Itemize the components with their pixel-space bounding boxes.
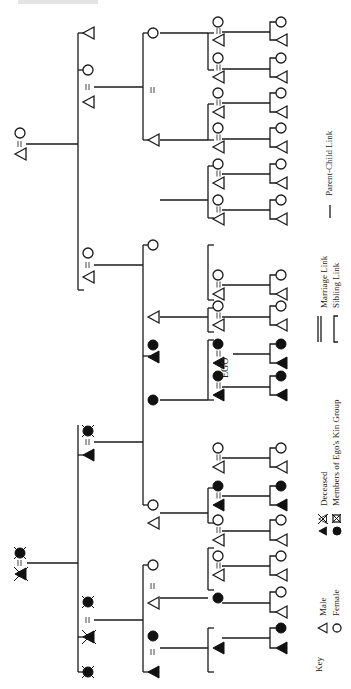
male-symbol — [148, 597, 159, 609]
marriage-link-icon — [86, 84, 89, 90]
male-symbol — [213, 177, 224, 189]
deceased-female-symbol — [82, 425, 94, 437]
kin-male-symbol — [213, 389, 224, 401]
legend-kin-female-icon — [333, 527, 341, 535]
kin-female-symbol — [276, 339, 286, 349]
male-symbol — [276, 141, 287, 153]
deceased-female-symbol — [82, 666, 94, 678]
female-symbol — [213, 301, 223, 311]
male-symbol — [213, 106, 224, 118]
kin-female-symbol — [276, 481, 286, 491]
marriage-link-icon — [217, 351, 220, 357]
marriage-link-icon — [217, 135, 220, 141]
marriage-link-icon — [18, 560, 21, 566]
male-symbol — [83, 27, 94, 39]
female-symbol — [83, 65, 93, 75]
female-symbol — [83, 248, 93, 258]
generation-5 — [276, 17, 287, 654]
svg-text:Key: Key — [314, 657, 324, 672]
marriage-link-icon — [217, 455, 220, 461]
male-symbol — [213, 213, 224, 225]
kin-female-symbol — [148, 631, 158, 641]
legend-sibling-link-icon — [334, 316, 338, 342]
female-symbol — [276, 515, 286, 525]
legend-female-label: Female — [331, 590, 341, 617]
legend-deceased-female-icon — [332, 514, 341, 523]
generation-2 — [82, 27, 96, 678]
male-symbol — [276, 319, 287, 331]
marriage-link-icon — [151, 87, 154, 93]
male-symbol — [276, 106, 287, 118]
kin-female-symbol — [213, 593, 223, 603]
legend-female-icon — [333, 624, 341, 632]
legend-deceased-male-icon — [318, 514, 328, 524]
marriage-link-icon — [217, 313, 220, 319]
marriage-link-icon — [217, 65, 220, 71]
male-symbol — [83, 271, 94, 283]
marriage-link-icon — [151, 649, 154, 655]
female-symbol — [276, 195, 286, 205]
legend-sibling-link-label: Sibling Link — [331, 262, 341, 308]
male-symbol — [148, 311, 159, 323]
kin-male-symbol — [148, 351, 159, 363]
kin-male-symbol — [276, 499, 287, 511]
marriage-link-icon — [86, 262, 89, 268]
marriage-link-icon — [217, 493, 220, 499]
female-symbol — [213, 270, 223, 280]
female-symbol — [276, 551, 286, 561]
marriage-link-icon — [217, 563, 220, 569]
female-symbol — [213, 443, 223, 453]
generation-1 — [14, 128, 28, 581]
male-symbol — [213, 71, 224, 83]
female-symbol — [213, 551, 223, 561]
male-symbol — [148, 134, 159, 146]
male-symbol — [148, 517, 159, 529]
female-symbol — [15, 128, 25, 138]
female-symbol — [213, 53, 223, 63]
female-symbol — [213, 88, 223, 98]
female-symbol — [276, 159, 286, 169]
legend-key-label: Key — [314, 657, 324, 672]
legend-marriage-link-icon — [318, 316, 321, 342]
legend-male-label: Male — [318, 598, 328, 617]
female-symbol — [148, 240, 158, 250]
legend-kin-male-icon — [319, 527, 327, 535]
kin-male-symbol — [276, 642, 287, 654]
deceased-female-symbol — [82, 596, 94, 608]
female-symbol — [148, 500, 158, 510]
male-symbol — [83, 96, 94, 108]
female-symbol — [276, 301, 286, 311]
female-symbol — [276, 53, 286, 63]
kin-female-symbol — [276, 623, 286, 633]
female-symbol — [148, 560, 158, 570]
female-symbol — [213, 17, 223, 27]
male-symbol — [213, 288, 224, 300]
kin-female-symbol — [148, 395, 158, 405]
marriage-link-icon — [217, 282, 220, 288]
female-symbol — [213, 159, 223, 169]
female-symbol — [276, 88, 286, 98]
male-symbol — [15, 148, 26, 160]
marriage-link-icon — [217, 207, 220, 213]
deceased-male-symbol — [14, 567, 28, 581]
kin-female-symbol — [148, 340, 158, 350]
kin-male-symbol — [213, 642, 224, 654]
marriage-link-icon — [217, 28, 220, 34]
kin-male-symbol — [83, 449, 94, 461]
male-symbol — [213, 461, 224, 473]
generation-3 — [148, 28, 159, 678]
male-symbol — [213, 34, 224, 46]
male-symbol — [276, 534, 287, 546]
male-symbol — [276, 288, 287, 300]
faint-title-fragment — [18, 0, 98, 4]
kin-female-symbol — [276, 371, 286, 381]
male-symbol — [276, 606, 287, 618]
legend-deceased-label: Deceased — [319, 471, 329, 506]
legend: Key Male Female Deceased Members of Ego'… — [314, 130, 341, 672]
kin-male-symbol — [276, 357, 287, 369]
female-symbol — [148, 28, 158, 38]
ego-label: EGO — [219, 357, 230, 378]
male-symbol — [213, 319, 224, 331]
male-symbol — [276, 34, 287, 46]
legend-male-icon — [318, 623, 327, 633]
